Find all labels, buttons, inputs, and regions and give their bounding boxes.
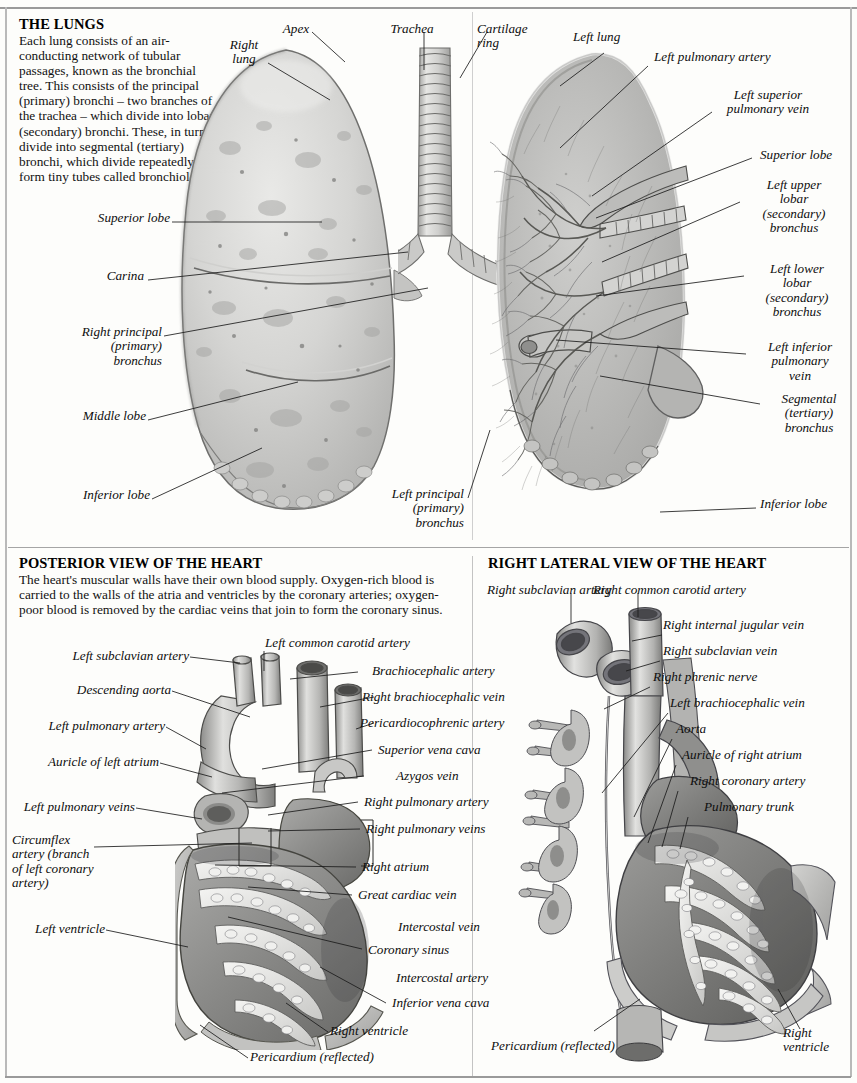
- label-aorta: Aorta: [676, 722, 756, 736]
- label-auricle-of-right-atrium: Auricle of right atrium: [682, 748, 857, 762]
- label-left-superior-pulmonary-vein: Left superior pulmonary vein: [700, 88, 836, 117]
- label-right-subclavian-vein: Right subclavian vein: [663, 644, 833, 658]
- label-trachea: Trachea: [380, 22, 444, 36]
- label-right-coronary-artery: Right coronary artery: [690, 774, 857, 788]
- label-left-brachiocephalic-vein: Left brachiocephalic vein: [670, 696, 857, 710]
- label-right-ventricle-lateral: Right ventricle: [783, 1026, 857, 1055]
- label-carina: Carina: [62, 269, 144, 283]
- label-right-lung: Right lung: [214, 38, 274, 67]
- label-inferior-lobe-left: Inferior lobe: [46, 488, 150, 502]
- label-right-phrenic-nerve: Right phrenic nerve: [653, 670, 818, 684]
- label-left-pulmonary-artery: Left pulmonary artery: [654, 50, 844, 64]
- label-right-ventricle-post: Right ventricle: [330, 1024, 470, 1038]
- label-left-pulmonary-veins: Left pulmonary veins: [9, 800, 135, 814]
- label-left-inferior-pulmonary-vein: Left inferior pulmonary vein: [748, 340, 852, 383]
- label-inferior-lobe-right: Inferior lobe: [760, 497, 857, 511]
- label-left-pulmonary-artery-post: Left pulmonary artery: [20, 719, 165, 733]
- label-pericardium-reflected-lateral: Pericardium (reflected): [491, 1039, 691, 1053]
- label-auricle-of-left-atrium: Auricle of left atrium: [14, 755, 159, 769]
- label-right-common-carotid-artery: Right common carotid artery: [593, 583, 793, 597]
- label-middle-lobe: Middle lobe: [46, 409, 146, 423]
- label-left-ventricle: Left ventricle: [9, 922, 105, 936]
- label-segmental-tertiary-bronchus: Segmental (tertiary) bronchus: [762, 392, 856, 435]
- label-superior-lobe-left: Superior lobe: [42, 211, 170, 225]
- label-left-common-carotid-artery: Left common carotid artery: [265, 636, 465, 650]
- label-left-principal-bronchus: Left principal (primary) bronchus: [352, 487, 464, 530]
- label-superior-lobe-right: Superior lobe: [760, 148, 857, 162]
- label-left-subclavian-artery: Left subclavian artery: [35, 649, 189, 663]
- label-right-principal-bronchus: Right principal (primary) bronchus: [22, 325, 162, 368]
- label-right-internal-jugular-vein: Right internal jugular vein: [663, 618, 857, 632]
- page-root: THE LUNGS Each lung consists of an air-c…: [0, 0, 857, 1083]
- label-cartilage-ring: Cartilage ring: [477, 22, 543, 51]
- label-left-lower-lobar-bronchus: Left lower lobar (secondary) bronchus: [744, 262, 850, 320]
- label-pericardium-reflected-post: Pericardium (reflected): [250, 1050, 450, 1064]
- label-left-upper-lobar-bronchus: Left upper lobar (secondary) bronchus: [740, 178, 848, 236]
- label-circumflex-artery: Circumflex artery (branch of left corona…: [12, 833, 132, 891]
- label-left-lung: Left lung: [573, 30, 643, 44]
- label-apex: Apex: [268, 22, 324, 36]
- label-pulmonary-trunk: Pulmonary trunk: [704, 800, 854, 814]
- label-descending-aorta: Descending aorta: [51, 683, 171, 697]
